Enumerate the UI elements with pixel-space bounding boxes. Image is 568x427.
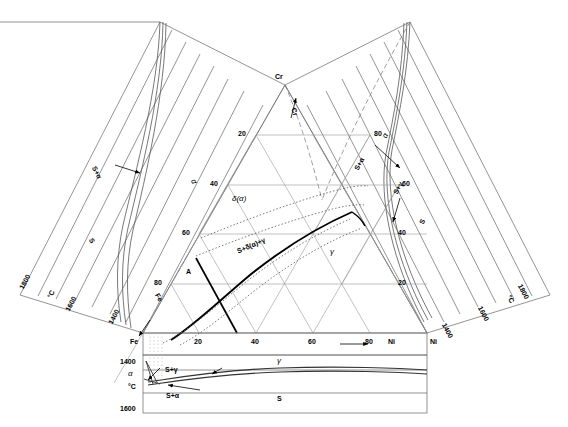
bottom-tick-20: 20 — [194, 338, 202, 345]
bottom-unit: °C — [128, 383, 136, 390]
right-wing-curves — [384, 22, 432, 322]
field-label-gamma: γ — [330, 248, 334, 256]
field-label-delta-alpha: δ(α) — [232, 195, 246, 203]
triangle-corner-ni: Ni — [430, 338, 437, 345]
left-tick-40: 40 — [210, 180, 218, 187]
bottom-s-gamma-label: S+γ — [165, 366, 178, 373]
left-tick-80: 80 — [154, 279, 162, 286]
diagram-canvas — [0, 0, 568, 427]
right-wing-dashed — [285, 22, 410, 200]
bottom-axis-arrow-label: Ni — [388, 338, 395, 345]
right-wing-panel — [285, 22, 550, 333]
field-label-point-a: A — [186, 268, 191, 275]
bottom-s-label: S — [277, 395, 282, 402]
triangle-apex-label: Cr — [275, 73, 283, 80]
right-tick-40: 40 — [398, 229, 406, 236]
bottom-tick-80: 80 — [365, 338, 373, 345]
left-tick-20: 20 — [238, 130, 246, 137]
bottom-gamma-label: γ — [277, 357, 281, 365]
bottom-s-alpha-label: S+α — [166, 392, 179, 399]
right-tick-20: 20 — [398, 279, 406, 286]
triangle-corner-fe: Fe — [130, 338, 138, 345]
bottom-tick-40: 40 — [251, 338, 259, 345]
bottom-alpha-label: α — [128, 370, 133, 378]
tie-line-A — [196, 258, 237, 333]
bottom-temp-1400: 1400 — [120, 358, 136, 365]
left-wing-panel — [0, 22, 285, 333]
bottom-tick-60: 60 — [308, 338, 316, 345]
bottom-temp-1600: 1600 — [120, 405, 136, 412]
left-tick-60: 60 — [182, 229, 190, 236]
dotted-boundaries — [163, 186, 368, 345]
phase-diagram-figure: Cr Fe Ni 20 40 60 80 Ni 20 40 60 80 80 6… — [0, 0, 568, 427]
bottom-panel-frame — [143, 333, 427, 413]
